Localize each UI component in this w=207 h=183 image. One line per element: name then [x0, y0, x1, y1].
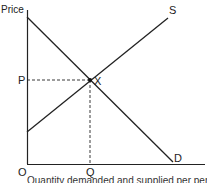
- x-axis-caption: Quantity demanded and supplied per perio…: [27, 176, 207, 183]
- demand-label: D: [174, 153, 182, 163]
- equilibrium-label: X: [94, 76, 101, 86]
- supply-label: S: [169, 5, 176, 15]
- equilibrium-point: [88, 78, 92, 82]
- origin-label: O: [18, 167, 27, 177]
- demand-curve: [27, 17, 173, 162]
- y-axis-label: Price: [1, 5, 24, 15]
- price-label: P: [18, 75, 25, 85]
